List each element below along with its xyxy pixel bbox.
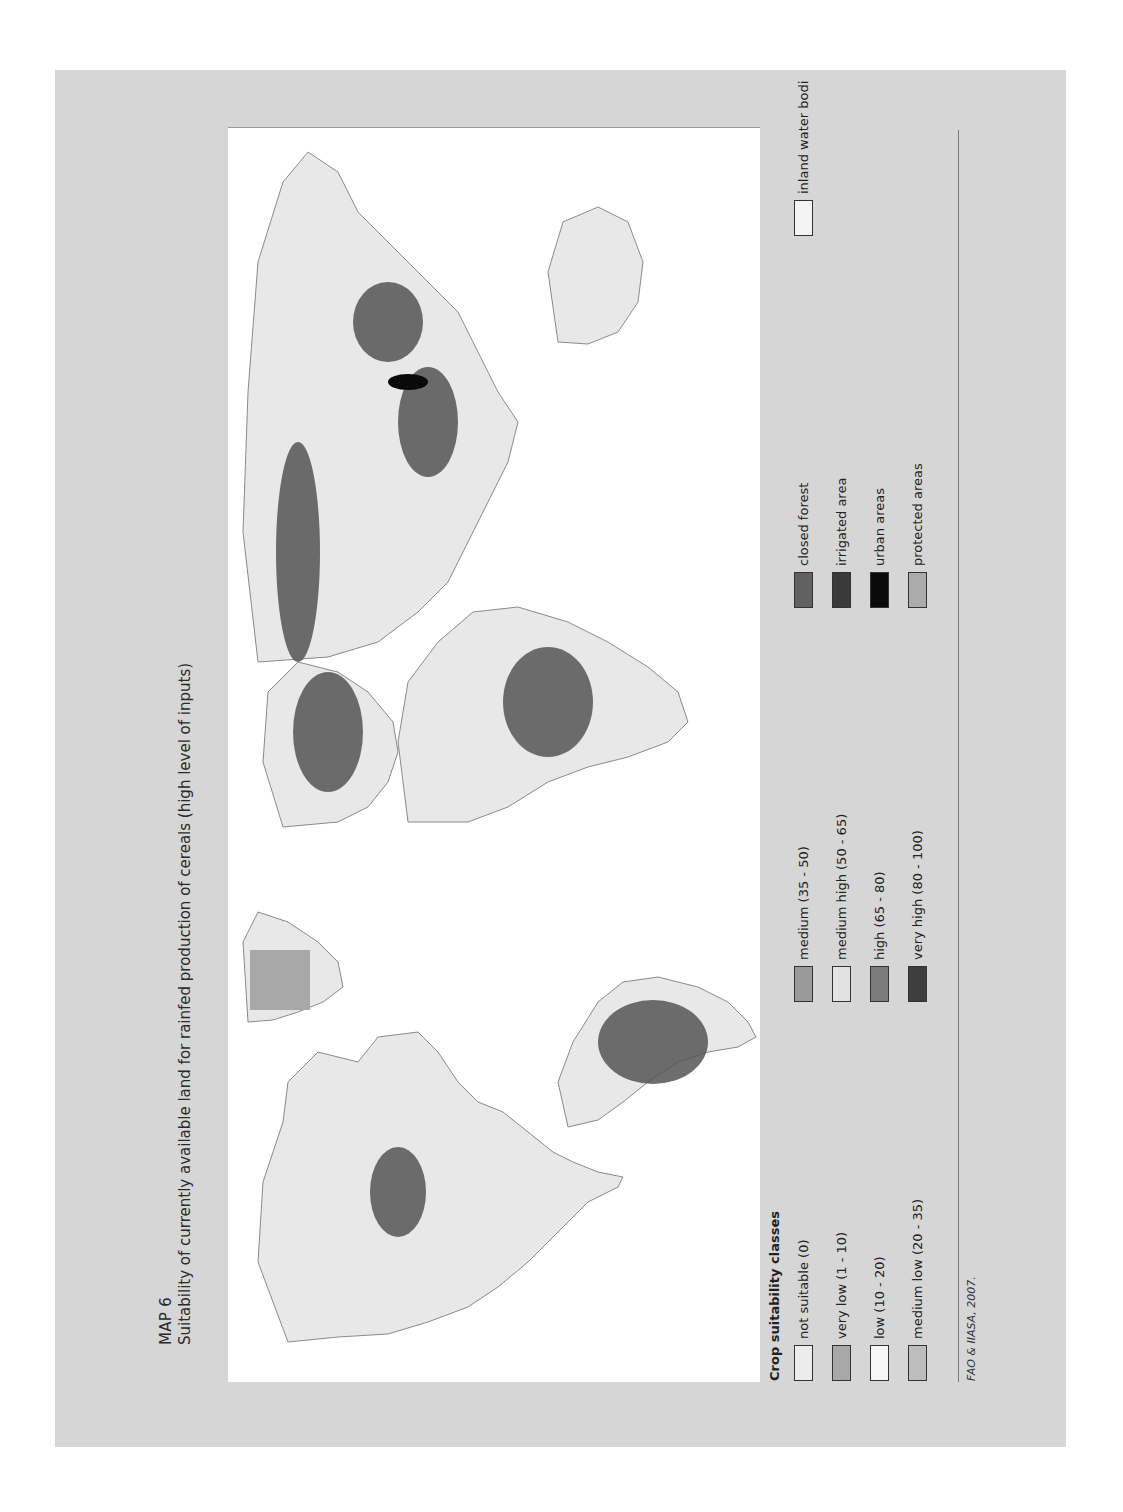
legend-swatch bbox=[832, 966, 851, 1002]
legend-item-urban-areas: urban areas bbox=[868, 488, 890, 608]
source-credit: FAO & IIASA, 2007. bbox=[965, 1276, 978, 1381]
legend-swatch bbox=[908, 966, 927, 1002]
legend-item-very-high: very high (80 - 100) bbox=[906, 830, 928, 1002]
legend-label: medium (35 - 50) bbox=[796, 846, 811, 960]
map-title: Suitability of currently available land … bbox=[176, 663, 195, 1345]
legend-label: medium low (20 - 35) bbox=[910, 1199, 925, 1339]
legend-item-high: high (65 - 80) bbox=[868, 871, 890, 1002]
legend-item-medium: medium (35 - 50) bbox=[792, 846, 814, 1002]
legend-label: very high (80 - 100) bbox=[910, 830, 925, 960]
world-map-graphic bbox=[228, 128, 760, 1382]
legend-item-irrigated-area: irrigated area bbox=[830, 478, 852, 608]
legend-label: irrigated area bbox=[834, 478, 849, 566]
legend-swatch bbox=[832, 1345, 851, 1381]
legend-label: not suitable (0) bbox=[796, 1239, 811, 1339]
legend-label: medium high (50 - 65) bbox=[834, 814, 849, 960]
legend-swatch bbox=[870, 1345, 889, 1381]
legend-swatch bbox=[794, 200, 813, 236]
legend-label: inland water bodi bbox=[796, 81, 811, 194]
legend-item-medium-high: medium high (50 - 65) bbox=[830, 814, 852, 1002]
legend-item-very-low: very low (1 - 10) bbox=[830, 1232, 852, 1381]
legend-item-protected-areas: protected areas bbox=[906, 463, 928, 608]
legend-label: closed forest bbox=[796, 483, 811, 566]
legend-swatch bbox=[794, 1345, 813, 1381]
map-number: MAP 6 bbox=[157, 663, 176, 1345]
legend-swatch bbox=[870, 572, 889, 608]
legend-swatch bbox=[908, 572, 927, 608]
legend-label: urban areas bbox=[872, 488, 887, 566]
legend-item-inland-water-bodies: inland water bodi bbox=[792, 81, 814, 236]
legend-swatch bbox=[794, 966, 813, 1002]
legend-item-closed-forest: closed forest bbox=[792, 483, 814, 608]
map-page: MAP 6 Suitability of currently available… bbox=[55, 70, 1066, 1447]
legend-swatch bbox=[794, 572, 813, 608]
legend-label: low (10 - 20) bbox=[872, 1256, 887, 1339]
legend-label: high (65 - 80) bbox=[872, 871, 887, 960]
australia bbox=[548, 207, 643, 344]
title-block: MAP 6 Suitability of currently available… bbox=[157, 663, 195, 1345]
legend-swatch bbox=[908, 1345, 927, 1381]
legend-heading: Crop suitability classes bbox=[767, 1211, 782, 1381]
separator-line bbox=[958, 130, 959, 1382]
legend-swatch bbox=[832, 572, 851, 608]
world-map bbox=[228, 127, 760, 1382]
legend-item-not-suitable: not suitable (0) bbox=[792, 1239, 814, 1381]
legend-label: protected areas bbox=[910, 463, 925, 566]
legend-label: very low (1 - 10) bbox=[834, 1232, 849, 1339]
legend-item-medium-low: medium low (20 - 35) bbox=[906, 1199, 928, 1381]
legend-item-low: low (10 - 20) bbox=[868, 1256, 890, 1381]
legend-swatch bbox=[870, 966, 889, 1002]
